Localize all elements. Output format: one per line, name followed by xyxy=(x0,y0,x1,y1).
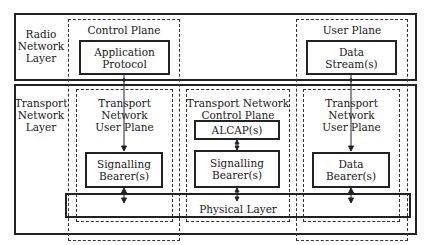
connector-arrows xyxy=(0,0,429,245)
arrowhead-down-icon xyxy=(122,146,127,151)
